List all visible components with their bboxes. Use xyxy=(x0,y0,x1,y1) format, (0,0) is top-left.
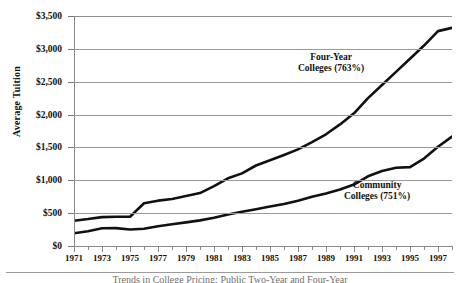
y-axis-tick-mark xyxy=(68,147,74,148)
x-axis-tick-mark xyxy=(116,246,117,250)
x-axis-tick-labels: 1971197319751977197919811983198519871989… xyxy=(74,253,452,267)
gridline xyxy=(74,147,452,148)
y-axis-tick-label: $3,500 xyxy=(36,11,62,21)
x-axis-tick-mark xyxy=(74,246,75,252)
annotation-community-line1: Community xyxy=(344,180,410,191)
y-axis-tick-label: $2,000 xyxy=(36,110,62,120)
annotation-four-year-line2: Colleges (763%) xyxy=(298,63,364,74)
x-axis-tick-label: 1977 xyxy=(149,253,167,263)
x-axis-tick-label: 1991 xyxy=(345,253,363,263)
x-axis-tick-mark xyxy=(214,246,215,252)
y-axis-tick-label: $2,500 xyxy=(36,77,62,87)
gridline xyxy=(74,49,452,50)
y-axis-tick-mark xyxy=(68,82,74,83)
chart-figure: Average Tuition $0$500$1,000$1,500$2,000… xyxy=(0,0,460,283)
y-axis-tick-mark xyxy=(68,213,74,214)
x-axis-tick-mark xyxy=(256,246,257,250)
x-axis-tick-mark xyxy=(158,246,159,252)
x-axis-tick-mark xyxy=(410,246,411,252)
y-axis-tick-mark xyxy=(68,49,74,50)
x-axis-tick-label: 1971 xyxy=(65,253,83,263)
x-axis-tick-mark xyxy=(200,246,201,250)
annotation-four-year-line1: Four-Year xyxy=(298,52,364,63)
y-axis-tick-label: $500 xyxy=(43,208,62,218)
x-axis-tick-label: 1985 xyxy=(261,253,279,263)
x-axis-tick-mark xyxy=(172,246,173,250)
x-axis-tick-mark xyxy=(242,246,243,252)
x-axis-tick-mark xyxy=(228,246,229,250)
x-axis-tick-mark xyxy=(368,246,369,250)
y-axis-tick-label: $1,000 xyxy=(36,175,62,185)
y-axis-tick-label: $1,500 xyxy=(36,142,62,152)
series-lines xyxy=(74,16,452,246)
y-axis-tick-mark xyxy=(68,16,74,17)
x-axis-tick-mark xyxy=(326,246,327,252)
x-axis-tick-label: 1995 xyxy=(401,253,419,263)
annotation-community-colleges: Community Colleges (751%) xyxy=(344,180,410,202)
x-axis-tick-mark xyxy=(382,246,383,252)
x-axis-tick-mark xyxy=(284,246,285,250)
x-axis-tick-mark xyxy=(340,246,341,250)
x-axis-tick-mark xyxy=(396,246,397,250)
x-axis-tick-mark xyxy=(424,246,425,250)
x-axis-tick-label: 1979 xyxy=(177,253,195,263)
x-axis-tick-label: 1975 xyxy=(121,253,139,263)
y-axis-tick-label: $0 xyxy=(53,241,63,251)
x-axis-tick-mark xyxy=(452,246,453,250)
annotation-four-year-colleges: Four-Year Colleges (763%) xyxy=(298,52,364,74)
x-axis-tick-mark xyxy=(312,246,313,250)
x-axis-tick-label: 1989 xyxy=(317,253,335,263)
x-axis-tick-mark xyxy=(186,246,187,252)
gridline xyxy=(74,82,452,83)
annotation-community-line2: Colleges (751%) xyxy=(344,191,410,202)
x-axis-tick-mark xyxy=(298,246,299,252)
x-axis-ticks xyxy=(74,246,452,252)
x-axis-tick-label: 1997 xyxy=(429,253,447,263)
x-axis-tick-label: 1987 xyxy=(289,253,307,263)
x-axis-tick-label: 1993 xyxy=(373,253,391,263)
x-axis-tick-label: 1981 xyxy=(205,253,223,263)
x-axis-tick-mark xyxy=(88,246,89,250)
figure-caption: Trends in College Pricing: Public Two-Ye… xyxy=(6,274,454,283)
x-axis-tick-mark xyxy=(354,246,355,252)
y-axis-tick-mark xyxy=(68,115,74,116)
y-axis-tick-mark xyxy=(68,180,74,181)
y-axis-tick-mark xyxy=(68,246,74,247)
gridline xyxy=(74,115,452,116)
gridline xyxy=(74,16,452,17)
x-axis-tick-label: 1973 xyxy=(93,253,111,263)
y-axis-tick-labels: $0$500$1,000$1,500$2,000$2,500$3,000$3,5… xyxy=(0,16,74,246)
plot-area xyxy=(74,16,452,246)
caption-divider xyxy=(6,272,454,273)
x-axis-tick-mark xyxy=(144,246,145,250)
x-axis-tick-mark xyxy=(438,246,439,252)
x-axis-tick-label: 1983 xyxy=(233,253,251,263)
x-axis-tick-mark xyxy=(130,246,131,252)
gridline xyxy=(74,213,452,214)
y-axis-line xyxy=(74,16,75,246)
y-axis-tick-label: $3,000 xyxy=(36,44,62,54)
x-axis-tick-mark xyxy=(270,246,271,252)
x-axis-tick-mark xyxy=(102,246,103,252)
